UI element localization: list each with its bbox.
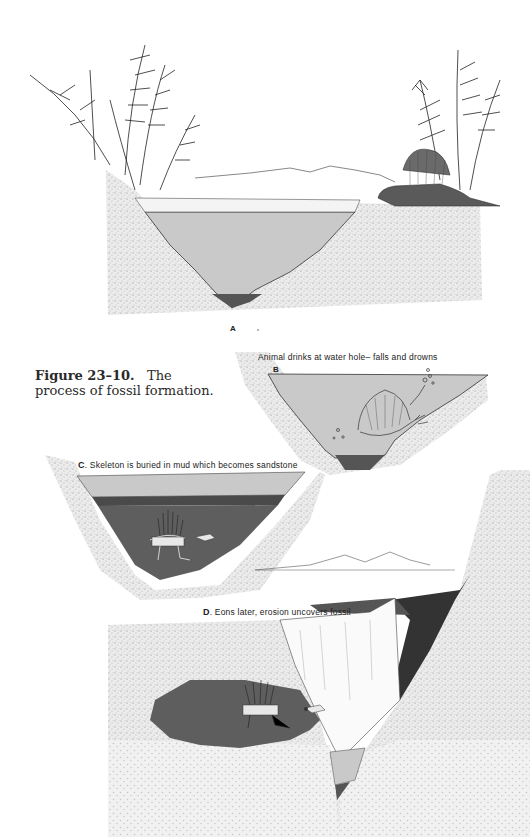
panel-a: A (30, 45, 500, 333)
panel-b-letter: B (273, 365, 279, 374)
panel-c (45, 455, 325, 600)
panel-d-caption-row: D. Eons later, erosion uncovers fossil (203, 607, 351, 617)
panel-a-left-plants (30, 45, 200, 190)
panel-a-letter: A (230, 324, 236, 333)
panel-a-hills (195, 166, 395, 182)
dimetrodon-animal (378, 149, 500, 206)
fossil-formation-illustration: A B (0, 0, 530, 837)
panel-b-caption: Animal drinks at water hole– falls and d… (258, 352, 438, 362)
panel-c-letter: C (78, 460, 85, 470)
figure-caption: Figure 23–10. The process of fossil form… (35, 368, 225, 398)
panel-c-caption: Skeleton is buried in mud which becomes … (90, 460, 298, 470)
panel-c-caption-row: C. Skeleton is buried in mud which becom… (78, 460, 298, 470)
panel-c-sand-layer (77, 472, 305, 497)
panel-d-letter: D (203, 607, 210, 617)
figure-number: Figure 23–10. (35, 368, 135, 383)
panel-b: B (235, 352, 488, 475)
panel-d-caption: Eons later, erosion uncovers fossil (215, 607, 351, 617)
panel-d-lower-block (108, 740, 340, 837)
